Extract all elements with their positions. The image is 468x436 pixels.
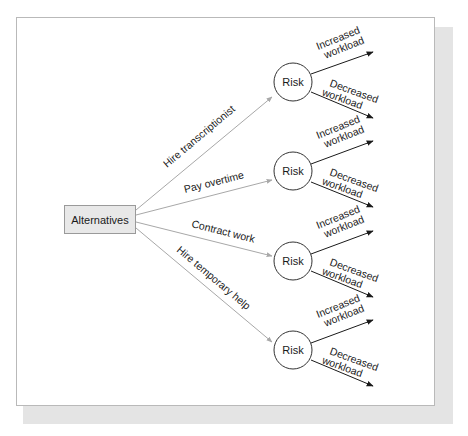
outcome-edge-increased [311,52,373,74]
outcome-edge-increased [311,320,373,343]
risk-group-2: Risk Increased workload Decreased worklo… [274,112,380,207]
risk-group-4: Risk Increased workload Decreased worklo… [274,291,380,386]
outcome-edge-increased [311,231,373,254]
alternative-label: Contract work [191,217,257,244]
alternatives-root-label: Alternatives [71,214,128,226]
alternative-label: Hire temporary help [175,243,253,312]
alternatives-root-node: Alternatives [64,205,136,234]
risk-node-label: Risk [282,255,304,267]
edge-hire-transcriptionist [136,97,272,210]
risk-node-label: Risk [282,76,304,88]
risk-node-label: Risk [282,344,304,356]
risk-group-3: Risk Increased workload Decreased worklo… [274,202,380,297]
alternative-label: Pay overtime [183,168,246,195]
edge-hire-temporary-help [136,228,272,342]
outcome-edge-increased [311,141,373,164]
risk-group-1: Risk Increased workload Decreased worklo… [274,23,380,118]
risk-node-label: Risk [282,165,304,177]
